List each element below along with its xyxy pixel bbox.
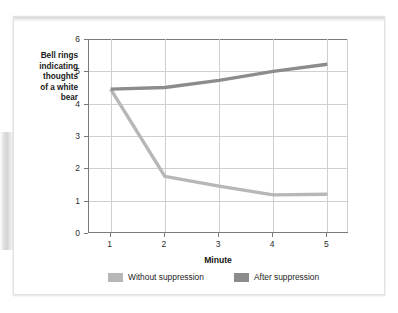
x-tick-mark: [272, 233, 273, 237]
line-chart: Bell rings indicating thoughts of a whit…: [14, 17, 386, 296]
page-edge-artifact: [0, 132, 13, 250]
y-tick-label: 0: [64, 229, 80, 238]
x-tick-label: 1: [100, 240, 120, 249]
legend-label: Without suppression: [128, 272, 204, 282]
chart-figure-card: Bell rings indicating thoughts of a whit…: [13, 16, 385, 295]
y-tick-label: 1: [64, 197, 80, 206]
series-line: [111, 64, 328, 89]
y-tick-mark: [84, 71, 88, 72]
chart-legend: Without suppressionAfter suppression: [88, 270, 358, 284]
x-tick-label: 5: [316, 240, 336, 249]
series-lines: [89, 39, 349, 233]
x-tick-mark: [326, 233, 327, 237]
x-tick-mark: [110, 233, 111, 237]
legend-swatch: [234, 273, 249, 282]
y-tick-label: 6: [64, 35, 80, 44]
y-tick-label: 3: [64, 132, 80, 141]
legend-label: After suppression: [254, 272, 319, 282]
x-axis-title: Minute: [88, 255, 348, 265]
y-tick-mark: [84, 233, 88, 234]
x-tick-mark: [164, 233, 165, 237]
y-tick-mark: [84, 104, 88, 105]
plot-inner: [89, 39, 348, 232]
legend-swatch: [108, 273, 123, 282]
legend-entry: Without suppression: [108, 270, 204, 284]
x-tick-mark: [218, 233, 219, 237]
series-line: [111, 89, 328, 195]
x-tick-label: 3: [208, 240, 228, 249]
y-tick-mark: [84, 136, 88, 137]
y-tick-mark: [84, 201, 88, 202]
x-tick-label: 2: [154, 240, 174, 249]
y-tick-label: 5: [64, 67, 80, 76]
y-tick-mark: [84, 168, 88, 169]
y-tick-label: 2: [64, 164, 80, 173]
legend-entry: After suppression: [234, 270, 319, 284]
y-axis-title: Bell rings indicating thoughts of a whit…: [16, 51, 78, 104]
y-tick-mark: [84, 39, 88, 40]
plot-area: [88, 39, 348, 233]
x-tick-label: 4: [262, 240, 282, 249]
y-tick-label: 4: [64, 100, 80, 109]
